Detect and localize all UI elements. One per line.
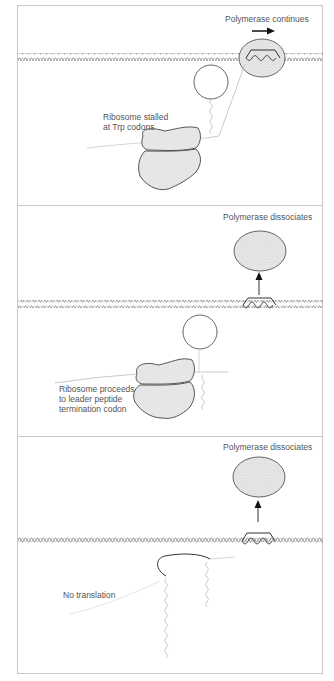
arrow-up-icon	[256, 272, 263, 295]
panel-2-ribosome-label-2: to leader peptide	[59, 394, 123, 404]
panel-2-ribosome-label-3: termination codon	[59, 404, 127, 414]
panel-3-polymerase-label: Polymerase dissociates	[223, 442, 312, 452]
arrow-right-icon	[252, 28, 275, 35]
stem-loop	[194, 65, 228, 99]
panel-2-ribosome-label-1: Ribosome proceeds	[59, 384, 135, 394]
panel-1-ribosome-label-1: Ribosome stalled	[103, 112, 168, 122]
ribosome-large-subunit	[139, 149, 201, 190]
ribosome-large-subunit	[134, 382, 195, 418]
panel-1	[18, 28, 323, 190]
dna-strand	[18, 300, 323, 308]
hairpin-stem	[210, 99, 213, 134]
hairpin-stem	[202, 375, 205, 410]
stem-loop	[183, 315, 217, 349]
mrna-strand	[206, 64, 245, 138]
panel-1-ribosome-label-2: at Trp codons	[103, 122, 155, 132]
attenuation-diagram: Polymerase continues Ribosome stalled at…	[0, 0, 334, 681]
arrow-up-icon	[255, 500, 262, 522]
rna-loop	[158, 554, 210, 576]
hairpin-stem	[206, 562, 209, 607]
panel-2-polymerase-label: Polymerase dissociates	[223, 212, 312, 222]
panel-3-translation-label: No translation	[63, 590, 116, 600]
rna-polymerase	[233, 457, 285, 497]
ribosome-small-subunit	[136, 359, 194, 384]
panel-3	[18, 457, 323, 658]
rna-polymerase	[239, 39, 285, 77]
rna-polymerase	[234, 231, 286, 271]
dna-strand	[18, 536, 323, 544]
leader-region-strand	[165, 578, 168, 658]
mrna-strand	[210, 557, 235, 559]
panel-1-polymerase-label: Polymerase continues	[225, 14, 309, 24]
